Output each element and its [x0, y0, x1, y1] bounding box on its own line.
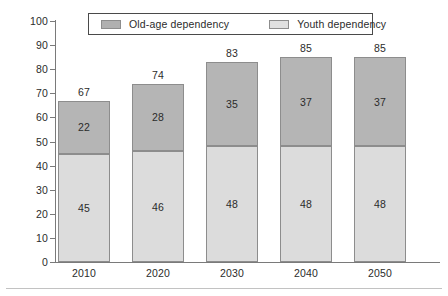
- bar-value-label-old-age: 22: [59, 122, 109, 133]
- bar-value-label-youth: 45: [59, 203, 109, 214]
- y-axis-tick-mark: [50, 238, 55, 239]
- bar-total-label: 85: [280, 43, 332, 54]
- bar-total-label: 83: [206, 48, 258, 59]
- chart-legend: Old-age dependency Youth dependency: [88, 13, 373, 35]
- legend-swatch-youth-icon: [269, 20, 289, 29]
- bar-value-label-youth: 48: [355, 199, 405, 210]
- y-axis-tick-mark: [50, 45, 55, 46]
- y-axis-tick-label: 50: [0, 137, 48, 147]
- stacked-bar-chart-figure: 1009080706050403020100 45226746287448358…: [0, 0, 448, 296]
- bar-stack[interactable]: 483785: [354, 57, 406, 262]
- bar-value-label-old-age: 37: [281, 97, 331, 108]
- y-axis-tick-label: 0: [0, 257, 48, 267]
- legend-label-youth: Youth dependency: [297, 19, 386, 30]
- bar-segment-old-age[interactable]: 37: [280, 57, 332, 146]
- y-axis-tick-label: 70: [0, 88, 48, 98]
- y-axis-tick-label: 100: [0, 16, 48, 26]
- bar-stack[interactable]: 462874: [132, 84, 184, 262]
- y-axis-tick-mark: [50, 214, 55, 215]
- bar-value-label-youth: 48: [207, 199, 257, 210]
- bar-total-label: 85: [354, 43, 406, 54]
- x-axis-tick-label: 2050: [346, 268, 414, 279]
- bar-segment-youth[interactable]: 45: [58, 154, 110, 262]
- x-axis-tick-label: 2010: [50, 268, 118, 279]
- bar-segment-youth[interactable]: 48: [206, 146, 258, 262]
- y-axis-tick-label: 40: [0, 161, 48, 171]
- page-divider-rule: [6, 288, 442, 289]
- y-axis-tick-label: 80: [0, 64, 48, 74]
- y-axis-tick-mark: [50, 166, 55, 167]
- bar-value-label-youth: 48: [281, 199, 331, 210]
- plot-area: 452267462874483583483785483785: [56, 21, 440, 262]
- bar-segment-old-age[interactable]: 37: [354, 57, 406, 146]
- y-axis-tick-label: 10: [0, 233, 48, 243]
- bar-stack[interactable]: 452267: [58, 101, 110, 262]
- x-axis-tick-label: 2020: [124, 268, 192, 279]
- legend-item-youth: Youth dependency: [269, 14, 386, 34]
- bar-segment-old-age[interactable]: 35: [206, 62, 258, 146]
- bar-value-label-old-age: 35: [207, 99, 257, 110]
- bar-segment-youth[interactable]: 48: [354, 146, 406, 262]
- y-axis-tick-mark: [50, 190, 55, 191]
- bar-segment-youth[interactable]: 48: [280, 146, 332, 262]
- y-axis-tick-mark: [50, 142, 55, 143]
- x-axis-line: [55, 262, 440, 263]
- y-axis-tick-label: 20: [0, 209, 48, 219]
- bar-total-label: 74: [132, 70, 184, 81]
- bar-segment-youth[interactable]: 46: [132, 151, 184, 262]
- legend-label-old-age: Old-age dependency: [129, 19, 229, 30]
- bar-segment-old-age[interactable]: 28: [132, 84, 184, 151]
- bar-stack[interactable]: 483785: [280, 57, 332, 262]
- x-axis-tick-label: 2030: [198, 268, 266, 279]
- bar-segment-old-age[interactable]: 22: [58, 101, 110, 154]
- y-axis-tick-mark: [50, 117, 55, 118]
- y-axis-tick-label: 60: [0, 112, 48, 122]
- bar-value-label-old-age: 28: [133, 112, 183, 123]
- x-axis-tick-label: 2040: [272, 268, 340, 279]
- bar-value-label-old-age: 37: [355, 97, 405, 108]
- legend-item-old-age: Old-age dependency: [101, 14, 229, 34]
- bar-stack[interactable]: 483583: [206, 62, 258, 262]
- y-axis-tick-mark: [50, 21, 55, 22]
- y-axis-tick-mark: [50, 262, 55, 263]
- y-axis-tick-mark: [50, 93, 55, 94]
- bar-total-label: 67: [58, 87, 110, 98]
- y-axis-tick-mark: [50, 69, 55, 70]
- y-axis-tick-label: 30: [0, 185, 48, 195]
- bar-value-label-youth: 46: [133, 202, 183, 213]
- legend-swatch-old-age-icon: [101, 20, 121, 29]
- y-axis-tick-label: 90: [0, 40, 48, 50]
